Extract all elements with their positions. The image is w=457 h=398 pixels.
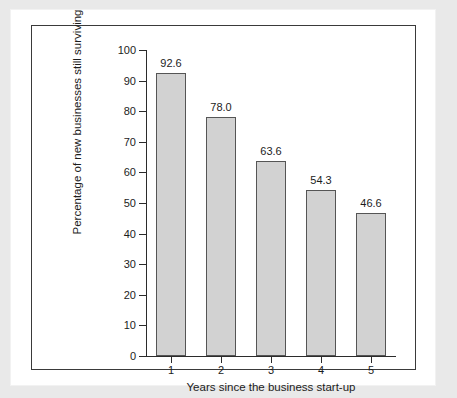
y-axis-tick [139, 142, 146, 143]
y-axis-tick-label: 100 [106, 45, 136, 56]
y-axis-title: Percentage of new businesses still survi… [71, 7, 83, 237]
x-axis-tick-label: 5 [351, 364, 391, 377]
x-axis-tick-label: 1 [151, 364, 191, 377]
bar-value-label: 46.6 [341, 198, 401, 209]
x-axis-tick [171, 357, 172, 363]
y-axis-tick-label: 50 [106, 198, 136, 209]
x-axis-tick-label: 4 [301, 364, 341, 377]
bar [306, 190, 336, 356]
y-axis-tick [139, 50, 146, 51]
y-axis-tick [139, 356, 146, 357]
bar-value-label: 54.3 [291, 175, 351, 186]
y-axis-tick-label: 40 [106, 229, 136, 240]
page-sheet: 0102030405060708090100 12345 92.678.063.… [11, 10, 435, 385]
y-axis-tick [139, 234, 146, 235]
y-axis-tick-label: 0 [106, 351, 136, 362]
y-axis-line [146, 50, 147, 357]
x-axis-tick [271, 357, 272, 363]
y-axis-tick-label: 20 [106, 290, 136, 301]
plot-area: 0102030405060708090100 12345 92.678.063.… [32, 26, 415, 369]
x-axis-tick-label: 3 [251, 364, 291, 377]
plot-frame: 0102030405060708090100 12345 92.678.063.… [31, 25, 416, 370]
y-axis-tick-label: 10 [106, 320, 136, 331]
bar [356, 213, 386, 356]
bar [206, 117, 236, 356]
y-axis-tick [139, 203, 146, 204]
bar [156, 73, 186, 356]
y-axis-tick [139, 264, 146, 265]
x-axis-tick [221, 357, 222, 363]
y-axis-tick [139, 172, 146, 173]
y-axis-tick [139, 81, 146, 82]
bar-value-label: 78.0 [191, 102, 251, 113]
y-axis-tick-label: 70 [106, 137, 136, 148]
bar-value-label: 92.6 [141, 58, 201, 69]
figure-root: 0102030405060708090100 12345 92.678.063.… [0, 0, 457, 398]
y-axis-tick-label: 30 [106, 259, 136, 270]
bar-value-label: 63.6 [241, 146, 301, 157]
y-axis-tick [139, 295, 146, 296]
x-axis-tick-label: 2 [201, 364, 241, 377]
x-axis-tick [371, 357, 372, 363]
bar [256, 161, 286, 356]
y-axis-tick-label: 60 [106, 167, 136, 178]
y-axis-tick [139, 111, 146, 112]
y-axis-tick-label: 80 [106, 106, 136, 117]
x-axis-tick [321, 357, 322, 363]
y-axis-tick [139, 325, 146, 326]
x-axis-title: Years since the business start-up [146, 381, 396, 393]
y-axis-tick-label: 90 [106, 76, 136, 87]
